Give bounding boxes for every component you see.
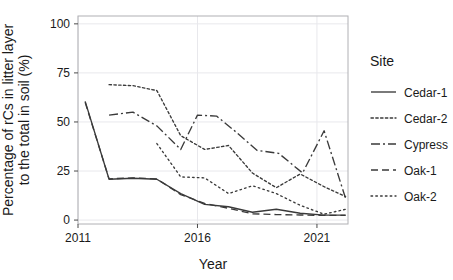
x-tick-label: 2021: [304, 231, 331, 245]
legend-label: Oak-2: [404, 190, 437, 204]
grid-lines: [78, 16, 348, 224]
legend-label: Cedar-2: [404, 112, 448, 126]
y-axis-title: Percentage of rCs in litter layerto the …: [0, 24, 32, 217]
y-tick-label: 0: [63, 213, 70, 227]
y-axis-title-line1: Percentage of rCs in litter layer: [0, 24, 16, 217]
line-chart: 0255075100 201120162021 YearPercentage o…: [0, 0, 453, 280]
legend-item-cypress[interactable]: Cypress: [371, 138, 448, 152]
y-tick-label: 50: [57, 115, 71, 129]
y-tick-label: 75: [57, 66, 71, 80]
chart-legend: SiteCedar-1Cedar-2CypressOak-1Oak-2: [370, 53, 448, 204]
y-axis-title-line2: to the total in soil (%): [16, 55, 32, 186]
y-tick-label: 25: [57, 164, 71, 178]
x-axis-tick-labels: 201120162021: [65, 231, 331, 245]
legend-label: Cedar-1: [404, 86, 448, 100]
legend-label: Cypress: [404, 138, 448, 152]
legend-item-cedar-1[interactable]: Cedar-1: [371, 86, 448, 100]
chart-figure: 0255075100 201120162021 YearPercentage o…: [0, 0, 453, 280]
legend-item-oak-1[interactable]: Oak-1: [371, 164, 437, 178]
y-axis-tick-labels: 0255075100: [50, 17, 70, 227]
x-tick-label: 2011: [65, 231, 91, 245]
legend-item-oak-2[interactable]: Oak-2: [371, 190, 437, 204]
x-tick-label: 2016: [184, 231, 211, 245]
legend-item-cedar-2[interactable]: Cedar-2: [371, 112, 448, 126]
x-axis-title: Year: [199, 256, 228, 272]
y-tick-label: 100: [50, 17, 70, 31]
panel-background: [78, 16, 348, 224]
legend-title: Site: [370, 53, 394, 69]
legend-label: Oak-1: [404, 164, 437, 178]
